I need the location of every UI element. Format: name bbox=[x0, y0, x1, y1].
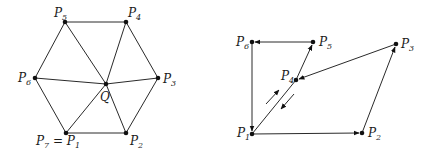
arrow-p1-p2 bbox=[252, 133, 359, 134]
vertex-p6 bbox=[33, 76, 38, 81]
label-p4: P4 bbox=[127, 6, 141, 22]
label-p1: P1 bbox=[236, 126, 250, 142]
label-p6: P6 bbox=[235, 35, 249, 51]
label-q: Q bbox=[100, 90, 110, 104]
label-p5: P5 bbox=[53, 6, 67, 22]
edge-p3-p4 bbox=[126, 22, 158, 78]
label-p2: P2 bbox=[367, 126, 381, 142]
vertex-labels: P1 P2 P3 P4 P5 P6 bbox=[235, 35, 414, 142]
directed-edges bbox=[252, 42, 396, 134]
vertex-p4 bbox=[294, 78, 299, 83]
vertex-p1 bbox=[250, 132, 255, 137]
spoke-q-p6 bbox=[35, 78, 106, 84]
vertex-p3 bbox=[394, 42, 399, 47]
vertex-q bbox=[104, 82, 109, 87]
left-hexagon-diagram: P7 = P1 P2 P3 P4 P5 P6 Q bbox=[17, 6, 176, 150]
label-p6: P6 bbox=[17, 71, 31, 87]
arrow-p3-p4 bbox=[299, 44, 396, 79]
label-p5: P5 bbox=[318, 35, 332, 51]
vertex-p5 bbox=[311, 40, 316, 45]
diagram-canvas: P7 = P1 P2 P3 P4 P5 P6 Q bbox=[0, 0, 432, 150]
vertex-p2 bbox=[360, 131, 365, 136]
hexagon-outline bbox=[35, 22, 158, 133]
label-p2: P2 bbox=[129, 134, 143, 150]
label-p7-p1: P7 = P1 bbox=[35, 134, 80, 150]
vertices bbox=[250, 40, 399, 137]
edge-p6-p1 bbox=[35, 78, 66, 133]
label-p4: P4 bbox=[280, 69, 294, 85]
vertex-p6 bbox=[250, 40, 255, 45]
right-directed-diagram: P1 P2 P3 P4 P5 P6 bbox=[235, 35, 414, 142]
spokes-from-q bbox=[35, 22, 158, 133]
edge-p1-p4 bbox=[252, 80, 296, 134]
spoke-q-p5 bbox=[65, 22, 106, 84]
edge-p2-p3 bbox=[126, 78, 158, 133]
arrow-up-right bbox=[266, 90, 279, 104]
vertices bbox=[33, 20, 161, 136]
label-p3: P3 bbox=[400, 37, 414, 53]
edge-p5-p6 bbox=[35, 22, 65, 78]
label-p3: P3 bbox=[162, 72, 176, 88]
spoke-q-p3 bbox=[106, 78, 158, 84]
spoke-q-p4 bbox=[106, 22, 126, 84]
arrow-p2-p3 bbox=[362, 47, 395, 133]
vertex-p2 bbox=[124, 131, 129, 136]
vertex-p3 bbox=[156, 76, 161, 81]
vertex-p4 bbox=[124, 20, 129, 25]
